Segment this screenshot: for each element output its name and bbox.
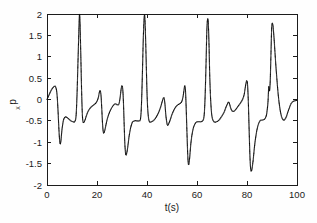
y-axis-title-subscript: x	[14, 106, 21, 110]
y-tick-label: 1.5	[29, 30, 42, 41]
figure-container: 020406080100 -2-1.5-1-0.500.511.52 t(s) …	[0, 0, 317, 223]
x-tick-label: 0	[44, 189, 49, 200]
x-axis-title: t(s)	[165, 202, 179, 213]
x-tick-label: 20	[92, 189, 103, 200]
chart-plot: 020406080100 -2-1.5-1-0.500.511.52 t(s) …	[0, 0, 317, 223]
y-axis-title: p	[7, 99, 18, 105]
y-tick-label: 0.5	[29, 73, 42, 84]
y-tick-label: 1	[37, 51, 42, 62]
y-tick-label: 0	[37, 94, 42, 105]
y-tick-label: -0.5	[26, 115, 42, 126]
y-tick-label: 2	[37, 9, 42, 20]
y-tick-label: -1.5	[26, 158, 42, 169]
y-tick-label: -2	[34, 180, 42, 191]
x-tick-label: 40	[142, 189, 153, 200]
x-tick-label: 100	[289, 189, 305, 200]
y-axis-title-group: p x	[7, 99, 21, 110]
y-tick-label: -1	[34, 137, 42, 148]
x-tick-label: 60	[192, 189, 203, 200]
x-tick-label: 80	[242, 189, 253, 200]
plot-background	[47, 14, 297, 185]
